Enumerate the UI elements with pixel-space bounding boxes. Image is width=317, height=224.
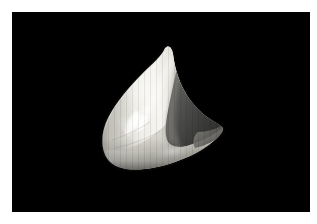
- specimen-specular-spot-b: [138, 102, 156, 118]
- specimen-photograph: [12, 12, 310, 212]
- photo-plate-background: [12, 12, 310, 212]
- photo-frame: [0, 0, 317, 224]
